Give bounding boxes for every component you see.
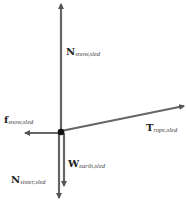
label-n-snow-sled: Nsnow,sled <box>66 46 101 57</box>
label-n-sister-sled: Nsister,sled <box>11 174 46 185</box>
origin-dot <box>58 129 65 136</box>
label-f-snow-sled: fsnow,sled <box>4 114 34 125</box>
free-body-diagram: Nsnow,sled Trope,sled fsnow,sled Wearth,… <box>0 0 186 209</box>
label-w-earth-sled: Wearth,sled <box>67 158 106 169</box>
label-t-rope-sled: Trope,sled <box>146 122 178 133</box>
